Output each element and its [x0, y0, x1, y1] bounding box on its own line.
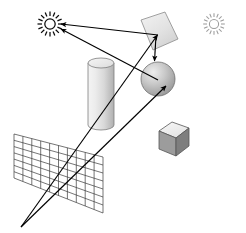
cube — [159, 122, 189, 156]
ray-tracing-diagram — [0, 0, 246, 233]
secondary-light-sun-icon — [203, 13, 225, 35]
cylinder-top-cap — [88, 58, 114, 68]
primary-light-sun-icon — [38, 12, 63, 37]
cylinder — [88, 58, 114, 130]
mirror-quad — [141, 12, 178, 50]
scene-canvas — [0, 0, 246, 233]
sphere — [141, 62, 175, 96]
ray-bundle — [21, 24, 166, 227]
